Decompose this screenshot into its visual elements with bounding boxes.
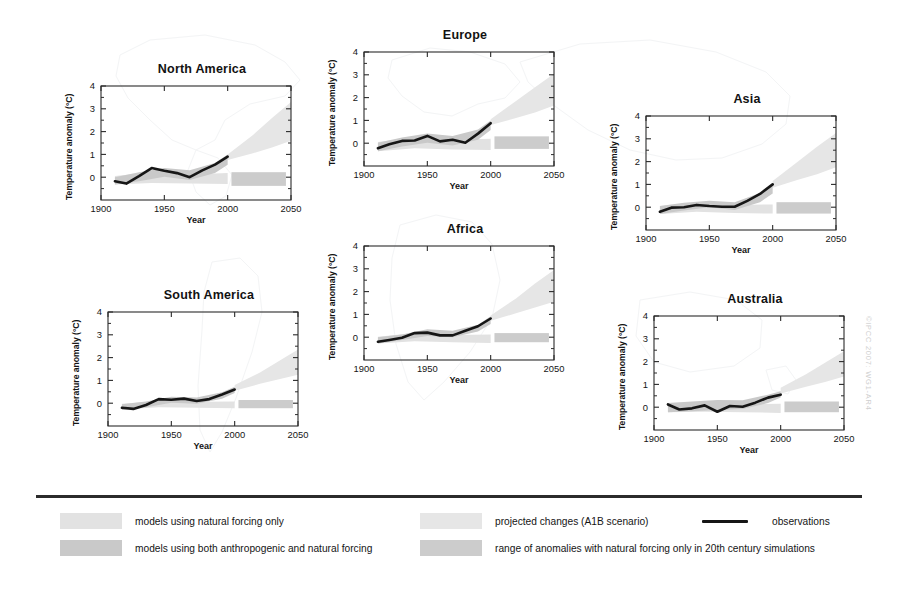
- svg-text:3: 3: [97, 329, 102, 340]
- svg-text:4: 4: [97, 306, 102, 317]
- svg-text:2000: 2000: [480, 363, 501, 374]
- svg-text:2050: 2050: [544, 169, 565, 180]
- panel-south-america: South America012341900195020002050Temper…: [62, 288, 310, 456]
- svg-text:2: 2: [90, 126, 95, 137]
- svg-text:0: 0: [353, 332, 358, 343]
- legend-swatch-observations: [702, 520, 748, 523]
- panel-north-america: North America012341900195020002050Temper…: [55, 62, 303, 230]
- svg-text:1950: 1950: [417, 363, 438, 374]
- y-axis-label: Temperature anomaly (°C): [64, 94, 74, 200]
- y-axis-label: Temperature anomaly (°C): [327, 60, 337, 166]
- svg-text:2000: 2000: [762, 233, 783, 244]
- svg-text:1: 1: [90, 149, 95, 160]
- svg-text:2050: 2050: [544, 363, 565, 374]
- svg-text:2000: 2000: [770, 433, 791, 444]
- x-axis-label: Year: [364, 181, 554, 191]
- climate-anomaly-figure: North America012341900195020002050Temper…: [0, 0, 898, 593]
- x-axis-label: Year: [646, 245, 836, 255]
- svg-text:0: 0: [90, 172, 95, 183]
- svg-text:1900: 1900: [354, 169, 375, 180]
- svg-text:2050: 2050: [826, 233, 847, 244]
- svg-text:2000: 2000: [217, 203, 238, 214]
- svg-text:1: 1: [643, 379, 648, 390]
- svg-text:0: 0: [353, 138, 358, 149]
- svg-text:3: 3: [635, 133, 640, 144]
- svg-text:3: 3: [353, 263, 358, 274]
- y-axis-label: Temperature anomaly (°C): [609, 124, 619, 230]
- svg-text:4: 4: [643, 310, 648, 321]
- svg-text:2: 2: [353, 92, 358, 103]
- svg-text:0: 0: [97, 398, 102, 409]
- x-axis-label: Year: [654, 445, 844, 455]
- svg-text:2050: 2050: [834, 433, 855, 444]
- x-axis-label: Year: [364, 375, 554, 385]
- plot-area: 012341900195020002050: [62, 302, 310, 452]
- svg-text:2050: 2050: [288, 429, 309, 440]
- panel-title: Europe: [318, 28, 566, 42]
- svg-text:4: 4: [353, 46, 358, 57]
- svg-text:0: 0: [635, 202, 640, 213]
- svg-text:1900: 1900: [98, 429, 119, 440]
- svg-text:2: 2: [643, 356, 648, 367]
- svg-text:1900: 1900: [354, 363, 375, 374]
- svg-text:1: 1: [353, 115, 358, 126]
- y-axis-label: Temperature anomaly (°C): [327, 254, 337, 360]
- svg-text:2000: 2000: [480, 169, 501, 180]
- svg-text:3: 3: [643, 333, 648, 344]
- svg-text:0: 0: [643, 402, 648, 413]
- svg-text:1900: 1900: [636, 233, 657, 244]
- panel-australia: Australia012341900195020002050Temperatur…: [608, 292, 856, 460]
- panel-title: South America: [62, 288, 310, 302]
- legend-label-observations: observations: [772, 516, 830, 527]
- svg-text:2: 2: [97, 352, 102, 363]
- svg-text:2000: 2000: [224, 429, 245, 440]
- svg-text:4: 4: [353, 240, 358, 251]
- panel-europe: Europe012341900195020002050Temperature a…: [318, 28, 566, 196]
- panel-title: Africa: [318, 222, 566, 236]
- legend-label-projected-a1b: projected changes (A1B scenario): [495, 516, 648, 527]
- x-axis-label: Year: [108, 441, 298, 451]
- legend-swatch-projected-a1b: [420, 513, 482, 529]
- svg-text:1950: 1950: [161, 429, 182, 440]
- legend-divider: [36, 495, 862, 498]
- plot-area: 012341900195020002050: [318, 236, 566, 386]
- legend-swatch-anthro-natural: [60, 540, 122, 556]
- svg-text:3: 3: [90, 103, 95, 114]
- svg-text:1: 1: [353, 309, 358, 320]
- plot-area: 012341900195020002050: [318, 42, 566, 192]
- svg-text:1950: 1950: [699, 233, 720, 244]
- svg-text:1: 1: [97, 375, 102, 386]
- panel-africa: Africa012341900195020002050Temperature a…: [318, 222, 566, 390]
- plot-area: 012341900195020002050: [608, 306, 856, 456]
- y-axis-label: Temperature anomaly (°C): [71, 320, 81, 426]
- legend-swatch-natural-only: [60, 513, 122, 529]
- ipcc-credit: ©IPCC 2007: WG1-AR4: [864, 316, 873, 411]
- svg-text:1900: 1900: [644, 433, 665, 444]
- svg-text:4: 4: [90, 80, 95, 91]
- panel-title: Australia: [608, 292, 856, 306]
- plot-area: 012341900195020002050: [600, 106, 848, 256]
- legend-swatch-natural-range-20c: [420, 540, 482, 556]
- plot-area: 012341900195020002050: [55, 76, 303, 226]
- svg-text:1950: 1950: [417, 169, 438, 180]
- panel-asia: Asia012341900195020002050Temperature ano…: [600, 92, 848, 260]
- svg-text:2: 2: [635, 156, 640, 167]
- svg-text:1950: 1950: [154, 203, 175, 214]
- y-axis-label: Temperature anomaly (°C): [617, 324, 627, 430]
- svg-text:1900: 1900: [91, 203, 112, 214]
- x-axis-label: Year: [101, 215, 291, 225]
- legend-label-natural-only: models using natural forcing only: [135, 516, 284, 527]
- svg-text:2050: 2050: [281, 203, 302, 214]
- svg-text:1950: 1950: [707, 433, 728, 444]
- svg-text:2: 2: [353, 286, 358, 297]
- svg-text:4: 4: [635, 110, 640, 121]
- panel-title: North America: [55, 62, 303, 76]
- legend-label-natural-range-20c: range of anomalies with natural forcing …: [495, 543, 815, 554]
- svg-text:3: 3: [353, 69, 358, 80]
- svg-text:1: 1: [635, 179, 640, 190]
- legend-label-anthro-natural: models using both anthropogenic and natu…: [135, 543, 372, 554]
- panel-title: Asia: [600, 92, 848, 106]
